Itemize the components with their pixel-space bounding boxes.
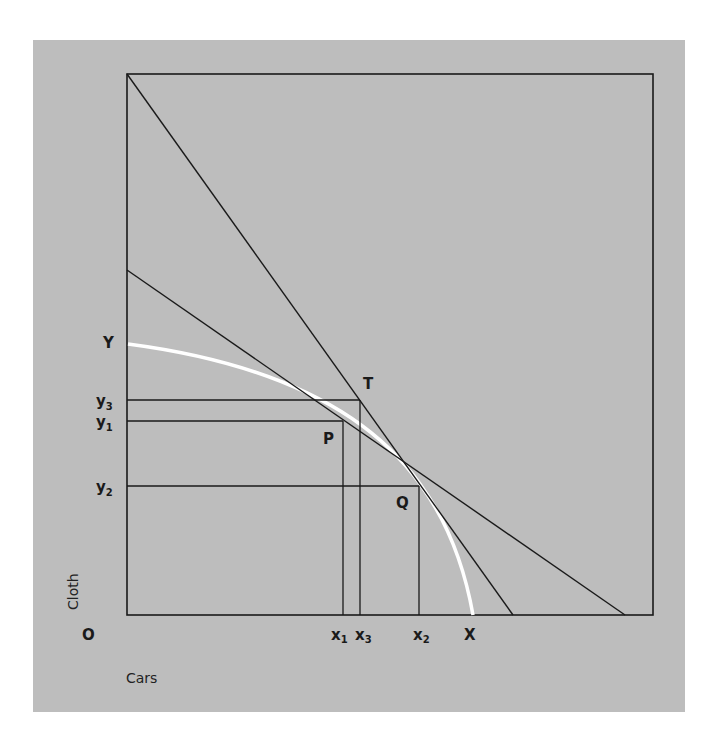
shallow-price-line	[127, 270, 625, 615]
plot-frame	[127, 74, 653, 615]
y-intercept-label: Y	[102, 334, 115, 352]
y2-label: y2	[96, 478, 113, 498]
origin-label: O	[82, 626, 95, 644]
point-t-label: T	[363, 375, 374, 393]
x-intercept-label: X	[464, 626, 476, 644]
x3-label: x3	[355, 626, 372, 645]
x2-label: x2	[413, 626, 430, 645]
x-axis-title: Cars	[126, 670, 157, 686]
x1-label: x1	[331, 626, 348, 645]
y-axis-title: Cloth	[65, 573, 81, 610]
y3-label: y3	[96, 392, 113, 412]
point-p-label: P	[323, 430, 334, 448]
y1-label: y1	[96, 413, 113, 433]
ppf-diagram: Y y3 y1 y2 T P Q O x1 x3 x2 X Cars Cloth	[0, 0, 718, 755]
ppf-curve	[128, 344, 473, 615]
steep-price-line	[127, 74, 513, 615]
point-q-label: Q	[396, 494, 409, 512]
